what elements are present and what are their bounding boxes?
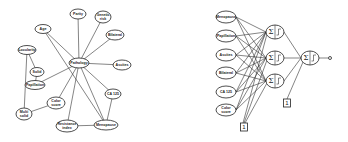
input-label: Menopause — [216, 15, 236, 19]
sum-icon: Σ — [269, 28, 274, 36]
node-label: CA 125 — [107, 92, 119, 96]
hidden-neuron-0: Σ — [266, 25, 284, 39]
hidden-neuron-2: Σ — [266, 74, 284, 88]
right-network-nodes: MenopausePapillationAscitesBilateralCA 1… — [216, 11, 332, 131]
edge-pathology-parity — [78, 14, 79, 63]
node-locularity: Locularity — [18, 46, 36, 55]
node-color: Colorscore — [47, 97, 65, 109]
node-label: Locularity — [18, 48, 35, 52]
node-menopause: Menopause — [94, 120, 118, 130]
input-node-5: Colorscore — [216, 104, 236, 116]
node-label: Ascites — [116, 63, 129, 67]
bias-node-0: 1 — [241, 123, 248, 131]
node-ascites: Ascites — [113, 60, 131, 70]
node-label: index — [62, 126, 71, 130]
edge-pathology-age — [43, 29, 79, 63]
node-label: Parity — [73, 12, 83, 16]
node-age: Age — [35, 25, 51, 34]
sum-icon: Σ — [269, 77, 274, 85]
sum-icon: Σ — [304, 54, 309, 62]
node-label: solid — [20, 114, 28, 118]
input-label: score — [221, 110, 231, 114]
node-resistance: Resistanceindex — [56, 120, 78, 132]
node-papillation: Papillation — [25, 81, 45, 90]
hidden-neuron-1: Σ — [266, 51, 284, 65]
edge-input-3-hidden-0 — [236, 32, 266, 73]
node-label: Menopause — [96, 123, 116, 127]
node-pathology: Pathology — [69, 58, 89, 68]
input-label: Bilateral — [219, 71, 233, 75]
input-label: Papillation — [217, 34, 235, 38]
node-bilateral: Bilateral — [106, 30, 124, 40]
diagram-canvas: ParityGeneticriskAgeBilateralLocularityP… — [0, 0, 348, 142]
edge-input-4-hidden-0 — [236, 32, 266, 92]
input-node-2: Ascites — [216, 49, 236, 61]
input-label: Ascites — [220, 53, 233, 57]
edge-pathology-genetic — [79, 17, 103, 63]
node-label: Papillation — [26, 83, 44, 87]
edge-age-menopause — [43, 29, 106, 125]
bias-node-1: 1 — [284, 99, 291, 107]
output-terminal-icon — [329, 57, 332, 60]
edge-hidden-0-output — [284, 32, 301, 58]
sum-icon: Σ — [269, 54, 274, 62]
edge-hidden-2-output — [284, 58, 301, 81]
input-node-3: Bilateral — [216, 67, 236, 79]
edge-pathology-menopause — [79, 63, 106, 125]
node-multisolid: Multisolid — [16, 108, 32, 120]
node-label: Solid — [33, 70, 42, 74]
edge-input-5-hidden-2 — [236, 81, 266, 110]
left-graph-nodes: ParityGeneticriskAgeBilateralLocularityP… — [16, 9, 131, 132]
node-label: risk — [100, 17, 106, 21]
node-genetic: Geneticrisk — [95, 11, 111, 23]
node-parity: Parity — [70, 9, 86, 19]
node-ca125: CA 125 — [105, 89, 121, 99]
node-label: Bilateral — [108, 33, 122, 37]
edge-bias-output — [287, 62, 303, 99]
input-label: CA 125 — [220, 90, 232, 94]
node-label: Age — [40, 27, 47, 31]
edge-input-0-hidden-0 — [236, 17, 266, 32]
node-label: score — [51, 103, 61, 107]
input-node-0: Menopause — [216, 11, 236, 23]
node-label: Pathology — [70, 61, 87, 65]
edge-pathology-resistance — [67, 63, 79, 126]
input-node-1: Papillation — [216, 30, 236, 42]
node-solid: Solid — [30, 68, 44, 77]
output-neuron: Σ — [301, 51, 319, 65]
input-node-4: CA 125 — [216, 86, 236, 98]
